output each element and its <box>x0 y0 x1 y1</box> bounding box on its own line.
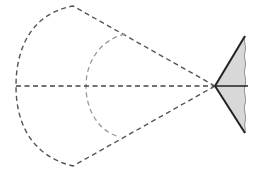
shaded-triangle <box>215 36 246 133</box>
cone-diagram <box>0 0 265 178</box>
